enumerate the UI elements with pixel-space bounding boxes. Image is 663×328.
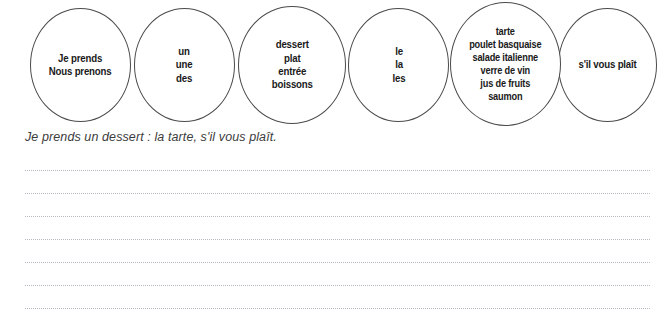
oval-definite-article-text: le la les: [392, 45, 405, 85]
oval-indefinite-article[interactable]: un une des: [134, 8, 235, 122]
writing-line[interactable]: [25, 262, 650, 263]
oval-politeness-phrase[interactable]: s'il vous plaît: [558, 8, 657, 122]
oval-course-category-text: dessert plat entrée boissons: [272, 38, 313, 92]
oval-subject-pronoun-verb-text: Je prends Nous prenons: [49, 52, 112, 79]
oval-menu-item[interactable]: tarte poulet basquaise salade italienne …: [450, 2, 561, 126]
oval-menu-item-text: tarte poulet basquaise salade italienne …: [469, 25, 541, 103]
oval-definite-article[interactable]: le la les: [348, 8, 449, 122]
writing-line[interactable]: [25, 193, 650, 194]
writing-line[interactable]: [25, 216, 650, 217]
oval-subject-pronoun-verb[interactable]: Je prends Nous prenons: [30, 8, 131, 122]
oval-politeness-phrase-text: s'il vous plaît: [578, 58, 636, 71]
worksheet-page: Je prends Nous prenons un une des desser…: [0, 0, 663, 328]
oval-course-category[interactable]: dessert plat entrée boissons: [238, 6, 346, 124]
oval-indefinite-article-text: un une des: [176, 45, 193, 85]
writing-line[interactable]: [25, 285, 650, 286]
writing-line[interactable]: [25, 170, 650, 171]
writing-line[interactable]: [25, 308, 650, 309]
writing-line[interactable]: [25, 239, 650, 240]
